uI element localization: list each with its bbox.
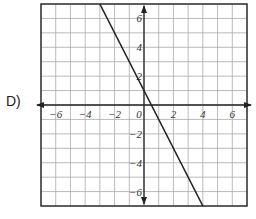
x-tick-label: 2 [171, 108, 177, 120]
x-tick-label: 0 [136, 108, 142, 120]
y-tick-label: −4 [129, 157, 142, 169]
x-tick-label: 4 [200, 108, 206, 120]
y-axis-down-arrow-icon [141, 197, 147, 205]
x-tick-label: −6 [49, 108, 62, 120]
coordinate-graph: −6−4−20246642−2−4−6 [0, 0, 256, 219]
y-tick-label: −2 [129, 128, 142, 140]
x-axis-right-arrow-icon [244, 102, 252, 108]
x-tick-label: 6 [230, 108, 236, 120]
y-tick-label: 6 [137, 12, 143, 24]
y-tick-label: −6 [129, 186, 142, 198]
x-tick-label: −4 [79, 108, 92, 120]
x-axis-left-arrow-icon [36, 102, 44, 108]
x-tick-label: −2 [108, 108, 121, 120]
y-tick-label: 4 [137, 41, 143, 53]
